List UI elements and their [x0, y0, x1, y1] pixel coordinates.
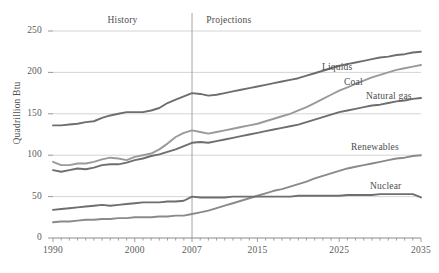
- series-label-liquids: Liquids: [322, 62, 352, 72]
- y-tick-label: 150: [12, 108, 42, 118]
- series-label-renewables: Renewables: [351, 142, 399, 152]
- energy-consumption-line-chart: Quadrillion Btu 050100150200250 19902000…: [0, 0, 439, 273]
- chart-plot-area: [0, 0, 439, 273]
- x-tick-label: 2007: [167, 245, 217, 255]
- x-tick-label: 2035: [396, 245, 439, 255]
- y-tick-label: 100: [12, 149, 42, 159]
- y-tick-label: 200: [12, 66, 42, 76]
- period-label-history: History: [73, 15, 173, 25]
- x-tick-label: 1990: [28, 245, 78, 255]
- gridlines: [53, 31, 421, 197]
- series-label-coal: Coal: [344, 77, 363, 87]
- y-tick-label: 0: [12, 232, 42, 242]
- series-label-nuclear: Nuclear: [370, 181, 401, 191]
- period-label-projections: Projections: [179, 15, 279, 25]
- y-tick-label: 50: [12, 191, 42, 201]
- y-tick-label: 250: [12, 25, 42, 35]
- x-tick-label: 2025: [314, 245, 364, 255]
- x-tick-label: 2000: [110, 245, 160, 255]
- x-axis-ticks: [48, 31, 421, 242]
- series-label-natural-gas: Natural gas: [366, 91, 412, 101]
- series-line-natural-gas: [53, 98, 421, 172]
- x-tick-label: 2015: [232, 245, 282, 255]
- series-line-liquids: [53, 52, 421, 126]
